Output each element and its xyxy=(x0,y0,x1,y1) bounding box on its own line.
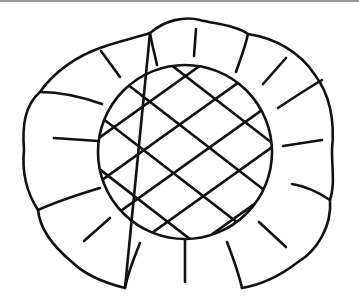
sunflower-drawing xyxy=(0,0,359,299)
petal-veins xyxy=(54,29,322,282)
center-disk xyxy=(98,65,272,239)
center-crosshatch xyxy=(0,0,350,299)
